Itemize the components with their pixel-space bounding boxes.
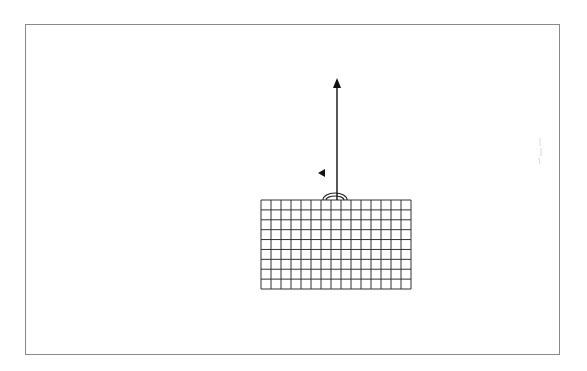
faint-marks xyxy=(539,138,541,164)
mesh-grid xyxy=(261,200,411,289)
pointer-triangle-icon xyxy=(318,169,325,177)
dome-shape xyxy=(323,193,347,200)
vector-arrow-head-icon xyxy=(333,78,341,88)
diagram-canvas xyxy=(0,0,587,371)
